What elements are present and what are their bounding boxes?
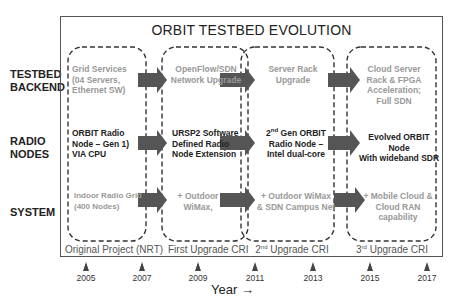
phase4-system-text: + Mobile Cloud & Cloud RAN capability	[356, 191, 440, 223]
phase2-radio-text: URSP2 Software Defined Radio Node Extens…	[172, 128, 239, 160]
phase2-system-text: + Outdoor WiMax,	[168, 191, 228, 212]
x-axis-label: Year →	[211, 282, 254, 297]
text-line: & SDN Campus Net	[256, 202, 336, 213]
text-line: + Outdoor	[168, 191, 228, 202]
phase3-system-text: + Outdoor WiMax & SDN Campus Net	[256, 191, 336, 212]
text-line: Node – Gen 1)	[72, 139, 129, 150]
text-line: Upgrade	[258, 75, 328, 86]
text-line: Network Upgrade	[166, 75, 246, 86]
year-label: 2013	[298, 273, 328, 283]
text-fragment: Upgrade CRI	[268, 244, 329, 255]
text-line: Intel dual-core	[258, 149, 334, 160]
phase3-radio-text: 2nd Gen ORBIT Radio Node – Intel dual-co…	[258, 128, 334, 160]
tick-marker-icon	[310, 262, 316, 271]
text-line: WiMax,	[168, 202, 228, 213]
text-line: With wideband SDR	[358, 153, 440, 164]
phase1-backend-text: Grid Services (04 Servers, Ethernet SW)	[72, 64, 127, 96]
text-line: ORBIT Radio	[72, 128, 129, 139]
text-line: (400 Nodes)	[74, 202, 142, 213]
text-line: Ethernet SW)	[72, 85, 127, 96]
tick-marker-icon	[139, 262, 145, 271]
phase2-backend-text: OpenFlow/SDN Network Upgrade	[166, 64, 246, 85]
text-line: Acceleration;	[358, 85, 430, 96]
text-line: + Outdoor WiMax	[256, 191, 336, 202]
year-label: 2005	[71, 273, 101, 283]
year-label: 2009	[183, 273, 213, 283]
phase-label-second-upgrade: 2nd Upgrade CRI	[252, 244, 332, 255]
text-line: OpenFlow/SDN	[166, 64, 246, 75]
tick-marker-icon	[367, 262, 373, 271]
text-line: Grid Services	[72, 64, 127, 75]
phase3-backend-text: Server Rack Upgrade	[258, 64, 328, 85]
text-line: Radio Node –	[258, 139, 334, 150]
text-line: Cloud RAN capability	[356, 202, 440, 223]
phase1-system-text: Indoor Radio Grid (400 Nodes)	[74, 191, 142, 212]
text-fragment: Upgrade CRI	[367, 244, 428, 255]
year-label: 2017	[412, 273, 442, 283]
text-line: Server Rack	[258, 64, 328, 75]
text-line: Defined Radio	[172, 139, 239, 150]
text-line: Evolved ORBIT Node	[358, 132, 440, 153]
text-fragment: Gen ORBIT	[278, 128, 326, 138]
text-line: 2nd Gen ORBIT	[258, 128, 334, 139]
tick-marker-icon	[252, 262, 258, 271]
text-line: Cloud Server	[358, 64, 430, 75]
phase1-radio-text: ORBIT Radio Node – Gen 1) VIA CPU	[72, 128, 129, 160]
arrow-icon	[138, 187, 167, 213]
arrow-icon	[328, 67, 360, 93]
text-line: Indoor Radio Grid	[74, 191, 142, 202]
superscript: nd	[261, 244, 268, 250]
text-line: Full SDN	[358, 96, 430, 107]
phase4-radio-text: Evolved ORBIT Node With wideband SDR	[358, 132, 440, 164]
arrow-icon	[138, 67, 167, 93]
timeline-ticks	[83, 262, 430, 271]
text-line: + Mobile Cloud &	[356, 191, 440, 202]
year-label: 2015	[355, 273, 385, 283]
phase-label-first-upgrade: First Upgrade CRI	[168, 244, 248, 255]
tick-marker-icon	[83, 262, 89, 271]
phase-label-third-upgrade: 3rd Upgrade CRI	[352, 244, 432, 255]
year-label: 2007	[127, 273, 157, 283]
phase4-backend-text: Cloud Server Rack & FPGA Acceleration; F…	[358, 64, 430, 106]
text-line: (04 Servers,	[72, 75, 127, 86]
tick-marker-icon	[424, 262, 430, 271]
text-line: Rack & FPGA	[358, 75, 430, 86]
text-line: VIA CPU	[72, 149, 129, 160]
text-line: URSP2 Software	[172, 128, 239, 139]
phase-label-original: Original Project (NRT)	[64, 244, 164, 255]
tick-marker-icon	[195, 262, 201, 271]
text-line: Node Extension	[172, 149, 239, 160]
